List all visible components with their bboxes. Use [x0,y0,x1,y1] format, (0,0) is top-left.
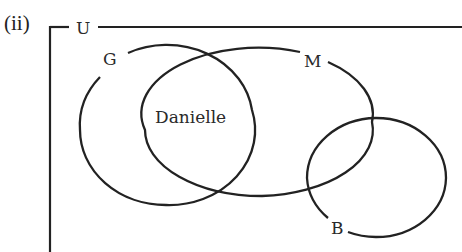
set-g-label: G [103,49,117,69]
element-danielle: Danielle [155,107,226,127]
venn-diagram-figure: (ii) U G M B Danielle [0,0,462,252]
part-label: (ii) [4,11,30,35]
universal-set-label: U [76,18,90,38]
venn-diagram-svg: (ii) U G M B Danielle [0,0,462,252]
set-m-label: M [304,51,321,71]
set-b-ellipse [307,118,446,237]
set-b-label: B [331,218,344,238]
